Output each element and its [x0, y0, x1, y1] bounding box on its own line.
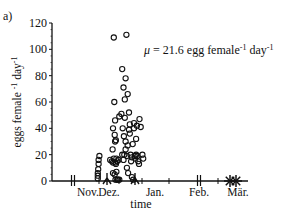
data-point	[124, 32, 129, 37]
data-point	[123, 76, 128, 81]
x-axis-tick-labels: Nov.Dez.Jan.Feb.Mär.	[77, 186, 249, 198]
svg-text:20: 20	[35, 148, 47, 162]
svg-text:Dez.: Dez.	[98, 186, 120, 198]
data-point	[110, 126, 115, 131]
mean-annotation: μ = 21.6 egg female-1 day-1	[143, 43, 273, 57]
y-axis-label: eggs female -1 day-1	[10, 57, 24, 148]
data-point	[121, 134, 126, 139]
data-point	[120, 126, 125, 131]
data-point	[125, 92, 130, 97]
data-point	[113, 118, 118, 123]
svg-text:100: 100	[29, 42, 47, 56]
svg-text:Feb.: Feb.	[189, 186, 209, 198]
x-axis-label: time	[130, 197, 151, 211]
svg-text:40: 40	[35, 121, 47, 135]
panel-label: a)	[3, 9, 12, 23]
data-point	[124, 165, 129, 170]
data-point	[122, 97, 127, 102]
data-point	[130, 142, 135, 147]
scatter-chart: a) eggs female -1 day-1 020406080100120 …	[0, 0, 282, 219]
svg-text:eggs female -1 day-1: eggs female -1 day-1	[10, 57, 24, 148]
data-point	[137, 117, 142, 122]
svg-text:120: 120	[29, 16, 47, 30]
y-axis-ticks: 020406080100120	[29, 16, 52, 188]
data-points	[95, 32, 146, 182]
data-point	[126, 110, 131, 115]
data-point	[110, 147, 115, 152]
data-point	[134, 136, 139, 141]
data-point	[121, 85, 126, 90]
data-point	[122, 115, 127, 120]
svg-text:0: 0	[41, 174, 47, 188]
data-point	[112, 99, 117, 104]
svg-text:Nov.: Nov.	[77, 186, 99, 198]
svg-text:80: 80	[35, 69, 47, 83]
data-point	[111, 35, 116, 40]
data-point	[120, 67, 125, 72]
svg-text:Mär.: Mär.	[227, 186, 249, 198]
data-point	[112, 132, 117, 137]
svg-text:60: 60	[35, 95, 47, 109]
